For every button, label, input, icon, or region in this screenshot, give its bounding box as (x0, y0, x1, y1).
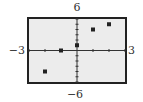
data-point-marker (107, 22, 111, 26)
data-point-marker (91, 28, 95, 32)
data-point-marker (43, 70, 47, 74)
data-point-marker (75, 43, 79, 47)
scatter-plot (0, 0, 143, 102)
data-point-marker (59, 49, 63, 53)
